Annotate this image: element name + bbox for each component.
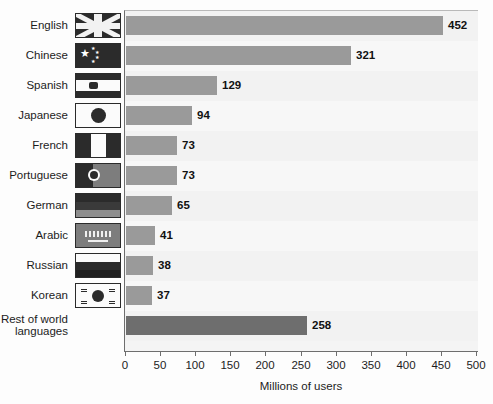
category-row: German [0,190,493,220]
category-label: Russian [0,259,72,271]
flag-cell: ★★★★★ [72,43,124,68]
x-axis-tick-label: 150 [220,359,239,371]
x-axis-title: Millions of users [124,380,478,392]
x-axis-tick-label: 250 [291,359,310,371]
flag-germany-icon [75,193,121,218]
x-axis-tick [441,351,442,356]
flag-portugal-icon [75,163,121,188]
x-axis-tick-label: 0 [122,359,128,371]
category-label: Arabic [0,229,72,241]
x-axis-tick [230,351,231,356]
category-row: Chinese★★★★★ [0,40,493,70]
category-row: Japanese [0,100,493,130]
category-row: Portuguese [0,160,493,190]
category-row: Korean [0,280,493,310]
x-axis-tick-label: 100 [185,359,204,371]
category-rows: EnglishChinese★★★★★SpanishJapaneseFrench… [0,10,493,340]
x-axis-tick [476,351,477,356]
category-row: Rest of world languages [0,310,493,340]
flag-spain-icon [75,73,121,98]
flag-cell [72,283,124,308]
x-axis-tick-label: 50 [154,359,167,371]
x-axis-tick-label: 300 [326,359,345,371]
flag-china-icon: ★★★★★ [75,43,121,68]
x-axis-tick-label: 500 [466,359,485,371]
x-axis-tick [406,351,407,356]
flag-cell [72,103,124,128]
flag-south-korea-icon [75,283,121,308]
x-axis-tick [336,351,337,356]
flag-cell [72,73,124,98]
x-axis-tick [125,351,126,356]
x-axis-tick [195,351,196,356]
x-axis-tick [301,351,302,356]
category-label: Portuguese [0,169,72,181]
category-row: Russian [0,250,493,280]
flag-france-icon [75,133,121,158]
x-axis-tick-label: 450 [431,359,450,371]
x-axis-tick-label: 200 [255,359,274,371]
flag-united-kingdom-icon [75,13,121,38]
category-label: Rest of world languages [0,313,72,337]
category-label: English [0,19,72,31]
language-users-bar-chart: 45232112994737365413837258 EnglishChines… [0,0,493,404]
flag-saudi-arabia-icon [75,223,121,248]
x-axis-tick [160,351,161,356]
category-label: French [0,139,72,151]
category-label: Japanese [0,109,72,121]
x-axis-tick [371,351,372,356]
category-label: German [0,199,72,211]
flag-cell [72,13,124,38]
category-label: Spanish [0,79,72,91]
category-row: Arabic [0,220,493,250]
x-axis: 050100150200250300350400450500 [124,351,478,352]
x-axis-tick-label: 400 [396,359,415,371]
flag-russia-icon [75,253,121,278]
category-label: Chinese [0,49,72,61]
flag-cell [72,163,124,188]
flag-cell [72,223,124,248]
flag-japan-icon [75,103,121,128]
x-axis-tick-label: 350 [361,359,380,371]
category-row: Spanish [0,70,493,100]
category-row: French [0,130,493,160]
flag-cell [72,253,124,278]
flag-cell [72,133,124,158]
category-row: English [0,10,493,40]
category-label: Korean [0,289,72,301]
flag-cell [72,193,124,218]
x-axis-tick [265,351,266,356]
